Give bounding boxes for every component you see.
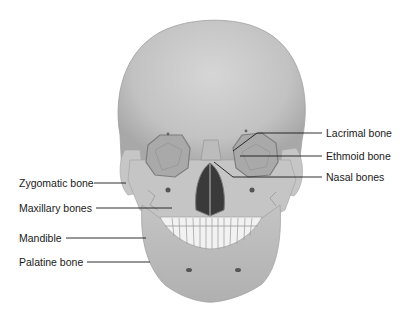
label-maxillary-bones: Maxillary bones	[19, 202, 92, 214]
nasal-bridge	[201, 140, 221, 160]
orbit-left	[146, 135, 190, 177]
label-mandible: Mandible	[19, 232, 62, 244]
label-palatine-bone: Palatine bone	[19, 256, 83, 268]
label-zygomatic-bone: Zygomatic bone	[19, 177, 94, 189]
orbit-right	[233, 133, 278, 177]
label-ethmoid-bone: Ethmoid bone	[326, 150, 391, 162]
label-lacrimal-bone: Lacrimal bone	[326, 127, 392, 139]
label-nasal-bones: Nasal bones	[326, 171, 384, 183]
skull-diagram: Zygomatic bone Maxillary bones Mandible …	[0, 0, 411, 313]
